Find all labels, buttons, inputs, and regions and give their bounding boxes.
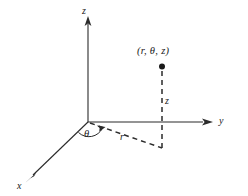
theta-angle-label: θ <box>84 129 89 140</box>
x-axis-label: x <box>17 181 21 191</box>
x-axis-line <box>33 122 88 175</box>
theta-angle-arc <box>79 128 103 137</box>
point-marker-dot <box>159 64 165 70</box>
z-axis-label: z <box>82 6 86 16</box>
y-axis-label: y <box>219 116 223 126</box>
point-coordinates-label: (r, θ, z) <box>137 46 169 57</box>
x-axis-arrowhead <box>25 173 36 183</box>
cylindrical-coordinates-figure: z y x (r, θ, z) z r θ <box>0 0 248 196</box>
coordinate-axes-svg <box>0 0 248 196</box>
r-segment-label: r <box>120 132 124 142</box>
z-segment-label: z <box>165 96 169 106</box>
y-axis-arrowhead <box>202 118 213 125</box>
